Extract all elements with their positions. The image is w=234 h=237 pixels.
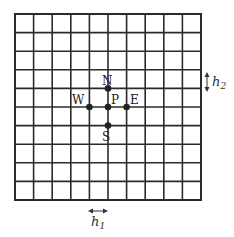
label-p: P: [111, 93, 119, 107]
label-e: E: [130, 93, 139, 107]
node-w: [86, 104, 93, 111]
grid-diagram: N S W E P h2 h1: [0, 0, 234, 237]
h1-label: h1: [91, 214, 105, 231]
node-s: [105, 122, 112, 129]
label-w: W: [72, 93, 85, 107]
h1-arrow-icon: [88, 209, 108, 214]
h2-arrow-icon: [205, 72, 210, 92]
h2-label: h2: [212, 74, 226, 91]
stencil-nodes: [86, 85, 130, 129]
label-s: S: [102, 130, 110, 144]
node-e: [123, 104, 130, 111]
label-n: N: [102, 74, 113, 88]
